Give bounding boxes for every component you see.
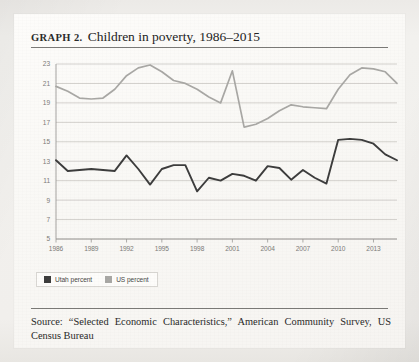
svg-text:11: 11 [43,177,50,184]
svg-text:9: 9 [46,197,50,204]
line-chart: 57911131517192123 1986198919921995199820… [14,54,405,269]
legend-label-utah: Utah percent [55,276,92,283]
chart-plot-area: 57911131517192123 1986198919921995199820… [14,54,405,269]
svg-text:23: 23 [43,60,51,67]
svg-text:1992: 1992 [119,245,134,252]
svg-text:5: 5 [46,235,50,242]
svg-text:2004: 2004 [261,245,276,252]
svg-text:1995: 1995 [155,245,170,252]
legend-label-us: US percent [116,276,149,283]
source-note: Source: “Selected Economic Characteristi… [31,315,391,343]
svg-text:2001: 2001 [225,245,240,252]
legend-swatch-us [105,276,112,283]
divider-bottom [31,308,388,309]
svg-text:1998: 1998 [190,245,205,252]
svg-text:1989: 1989 [84,245,99,252]
svg-text:13: 13 [43,158,51,165]
chart-legend: Utah percent US percent [36,272,158,287]
figure-card: GRAPH 2.Children in poverty, 1986–2015 5… [14,14,405,348]
svg-text:2013: 2013 [366,245,381,252]
svg-text:7: 7 [46,216,50,223]
svg-text:19: 19 [43,99,51,106]
figure-caption-heading: GRAPH 2.Children in poverty, 1986–2015 [31,27,389,45]
svg-text:2010: 2010 [331,245,346,252]
svg-text:2007: 2007 [296,245,311,252]
svg-text:21: 21 [43,80,51,87]
y-axis-tick-labels: 57911131517192123 [43,60,51,242]
svg-text:1986: 1986 [49,245,64,252]
x-axis-tick-labels: 1986198919921995199820012004200720102013 [49,245,381,252]
graph-number-label: GRAPH 2. [31,32,83,43]
svg-text:15: 15 [43,138,51,145]
legend-item-us: US percent [105,276,149,283]
divider-top [31,47,388,48]
legend-swatch-utah [44,276,51,283]
x-axis [56,64,397,243]
data-series-group [56,65,397,191]
scanned-page: GRAPH 2.Children in poverty, 1986–2015 5… [0,0,419,362]
gridlines [56,64,397,239]
legend-item-utah: Utah percent [44,276,92,283]
page-title: Children in poverty, 1986–2015 [88,29,260,44]
svg-text:17: 17 [43,119,51,126]
